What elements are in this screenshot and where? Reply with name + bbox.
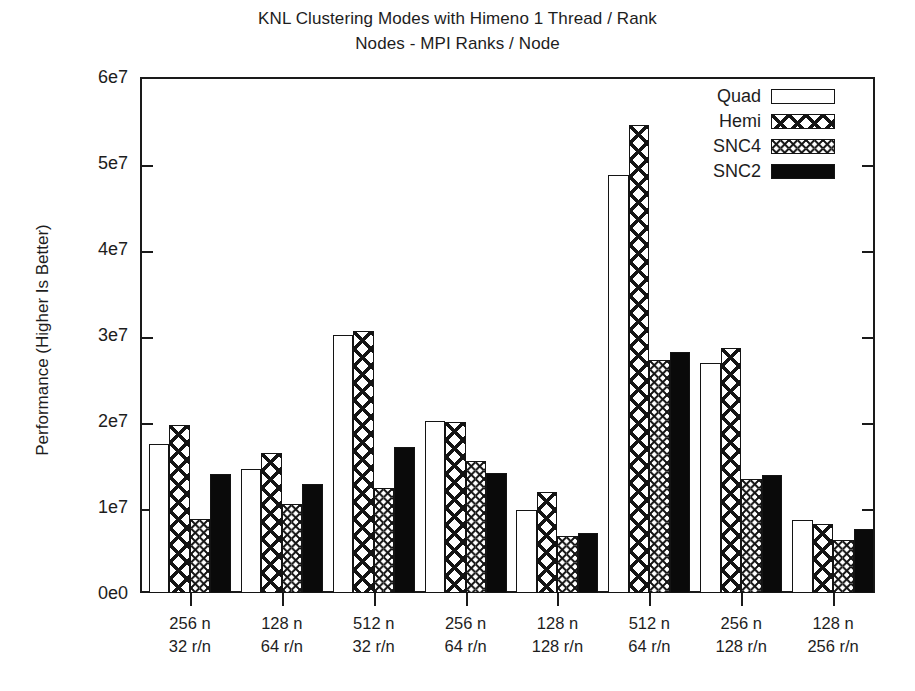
x-tick-label: 256 n128 r/n (716, 612, 767, 658)
bar-snc2-group-3 (394, 447, 415, 593)
bar-quad-group-8 (792, 520, 813, 593)
x-tick-label-ranks: 128 r/n (532, 635, 583, 658)
x-tick-label-nodes: 256 n (169, 612, 211, 635)
x-tick-label: 512 n32 r/n (353, 612, 395, 658)
y-tick-mark (142, 423, 153, 425)
bar-quad-group-2 (241, 469, 262, 593)
bar-snc2-group-1 (210, 474, 231, 593)
bar-hemi-group-7 (721, 348, 742, 593)
y-tick-label: 2e7 (8, 411, 128, 432)
x-tick-label-nodes: 256 n (716, 612, 767, 635)
y-tick-label: 4e7 (8, 239, 128, 260)
x-tick-mark (466, 593, 468, 606)
bar-snc4-group-8 (833, 540, 854, 593)
bar-snc4-group-4 (466, 461, 487, 593)
bar-snc4-group-3 (374, 488, 395, 593)
legend-swatch-hemi (771, 114, 835, 129)
bar-hemi-group-1 (169, 425, 190, 593)
y-tick-mark (862, 423, 873, 425)
x-tick-label-nodes: 128 n (261, 612, 303, 635)
y-tick-mark (862, 165, 873, 167)
bar-snc4-group-6 (649, 360, 670, 593)
bar-hemi-group-6 (629, 125, 650, 593)
bar-snc4-group-1 (190, 519, 211, 593)
y-tick-mark (862, 251, 873, 253)
bar-quad-group-3 (333, 335, 354, 593)
chart-legend: QuadHemiSNC4SNC2 (620, 84, 835, 184)
legend-label: Hemi (719, 111, 761, 132)
x-tick-label-ranks: 256 r/n (807, 635, 858, 658)
legend-item-hemi: Hemi (620, 109, 835, 134)
bar-quad-group-7 (700, 363, 721, 593)
bar-quad-group-1 (149, 444, 170, 593)
x-tick-label: 128 n64 r/n (261, 612, 303, 658)
x-tick-label-ranks: 64 r/n (444, 635, 486, 658)
x-tick-label: 512 n64 r/n (628, 612, 670, 658)
bar-hemi-group-2 (261, 453, 282, 593)
y-tick-mark (142, 251, 153, 253)
x-tick-label: 128 n128 r/n (532, 612, 583, 658)
bar-snc2-group-4 (486, 473, 507, 593)
legend-swatch-quad (771, 89, 835, 104)
x-tick-label-nodes: 512 n (628, 612, 670, 635)
y-tick-mark (142, 165, 153, 167)
y-tick-mark (862, 509, 873, 511)
bar-snc4-group-2 (282, 504, 303, 593)
y-tick-label: 5e7 (8, 153, 128, 174)
bar-snc2-group-2 (302, 484, 323, 593)
x-tick-label-ranks: 128 r/n (716, 635, 767, 658)
x-tick-label: 256 n64 r/n (444, 612, 486, 658)
legend-label: SNC4 (713, 136, 761, 157)
x-tick-mark (374, 593, 376, 606)
bar-hemi-group-4 (445, 422, 466, 593)
chart-title-line-2: Nodes - MPI Ranks / Node (0, 31, 915, 56)
y-tick-label: 6e7 (8, 67, 128, 88)
bar-snc2-group-7 (762, 475, 783, 593)
legend-item-quad: Quad (620, 84, 835, 109)
x-tick-mark (649, 593, 651, 606)
x-tick-label-ranks: 32 r/n (353, 635, 395, 658)
x-tick-label-nodes: 256 n (444, 612, 486, 635)
x-tick-label-nodes: 128 n (532, 612, 583, 635)
bar-snc2-group-8 (854, 529, 875, 594)
y-tick-label: 1e7 (8, 497, 128, 518)
bar-hemi-group-5 (537, 492, 558, 593)
bar-hemi-group-8 (813, 524, 834, 593)
y-tick-mark (862, 337, 873, 339)
legend-label: Quad (717, 86, 761, 107)
bar-quad-group-4 (425, 421, 446, 593)
bar-snc4-group-7 (741, 479, 762, 593)
bar-snc2-group-5 (578, 533, 599, 593)
chart-figure: KNL Clustering Modes with Himeno 1 Threa… (0, 0, 915, 691)
bar-quad-group-5 (516, 510, 537, 593)
legend-item-snc2: SNC2 (620, 159, 835, 184)
x-tick-label-nodes: 512 n (353, 612, 395, 635)
legend-item-snc4: SNC4 (620, 134, 835, 159)
legend-swatch-snc2 (771, 164, 835, 179)
y-tick-label: 0e0 (8, 583, 128, 604)
x-tick-label-ranks: 64 r/n (628, 635, 670, 658)
y-tick-label: 3e7 (8, 325, 128, 346)
x-tick-label-ranks: 32 r/n (169, 635, 211, 658)
bar-hemi-group-3 (353, 331, 374, 593)
legend-label: SNC2 (713, 161, 761, 182)
x-tick-label: 128 n256 r/n (807, 612, 858, 658)
chart-title: KNL Clustering Modes with Himeno 1 Threa… (0, 6, 915, 56)
x-tick-mark (557, 593, 559, 606)
x-tick-mark (741, 593, 743, 606)
y-tick-mark (142, 337, 153, 339)
x-tick-label: 256 n32 r/n (169, 612, 211, 658)
bar-snc4-group-5 (557, 536, 578, 593)
bar-quad-group-6 (608, 175, 629, 593)
x-tick-label-ranks: 64 r/n (261, 635, 303, 658)
legend-swatch-snc4 (771, 139, 835, 154)
chart-title-line-1: KNL Clustering Modes with Himeno 1 Threa… (0, 6, 915, 31)
x-tick-label-nodes: 128 n (807, 612, 858, 635)
x-tick-mark (833, 593, 835, 606)
bar-snc2-group-6 (670, 352, 691, 593)
x-tick-mark (190, 593, 192, 606)
x-tick-mark (282, 593, 284, 606)
